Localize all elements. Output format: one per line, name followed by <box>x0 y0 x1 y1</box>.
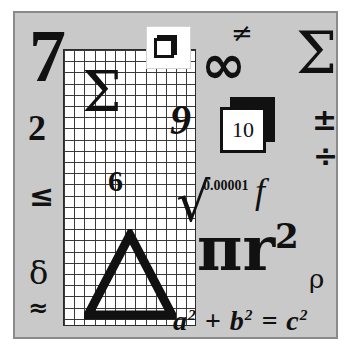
triangle-delta-glyph <box>84 229 176 324</box>
greek-delta-lowercase-glyph: δ <box>29 257 48 289</box>
ten-badge-value: 10 <box>232 117 254 143</box>
pythagorean-equation: a2 + b2 = c2 <box>173 307 308 335</box>
division-sign-icon: ÷ <box>313 141 338 171</box>
area-formula-exponent: 2 <box>275 216 299 256</box>
term-a-exponent: 2 <box>188 306 197 323</box>
term-c: c <box>286 305 299 336</box>
small-number-label: 0.00001 <box>203 179 249 193</box>
digit-six-glyph: 6 <box>108 166 123 196</box>
digit-nine-glyph: 9 <box>170 99 191 141</box>
infinity-icon: ∞ <box>201 38 246 92</box>
ten-badge[interactable]: 10 <box>220 97 275 153</box>
plus-operator: + <box>205 305 222 336</box>
digit-seven-glyph: 7 <box>29 19 66 93</box>
greek-rho-glyph: ρ <box>309 266 324 292</box>
layered-square-icon-box[interactable] <box>146 26 191 69</box>
equals-operator: = <box>261 305 278 336</box>
term-a: a <box>173 305 188 336</box>
digit-two-glyph: 2 <box>28 110 46 146</box>
function-f-glyph: f <box>255 173 265 209</box>
math-symbols-panel: 7 2 ≤ δ ≈ Σ 6 9 ≠ ∞ Σ <box>13 11 338 339</box>
term-b: b <box>230 305 245 336</box>
image-canvas: 7 2 ≤ δ ≈ Σ 6 9 ≠ ∞ Σ <box>0 0 351 350</box>
ten-badge-face: 10 <box>220 107 266 153</box>
approximately-equal-icon: ≈ <box>28 296 48 320</box>
summation-sigma-glyph: Σ <box>82 64 122 120</box>
term-b-exponent: 2 <box>245 306 254 323</box>
area-formula-base: πr <box>197 212 275 285</box>
term-c-exponent: 2 <box>300 306 309 323</box>
less-than-or-equal-icon: ≤ <box>29 181 54 211</box>
capital-sigma-glyph: Σ <box>296 24 337 82</box>
plus-minus-icon: ± <box>312 105 337 135</box>
square-outline-icon <box>154 38 174 58</box>
area-formula: πr2 <box>197 218 299 280</box>
